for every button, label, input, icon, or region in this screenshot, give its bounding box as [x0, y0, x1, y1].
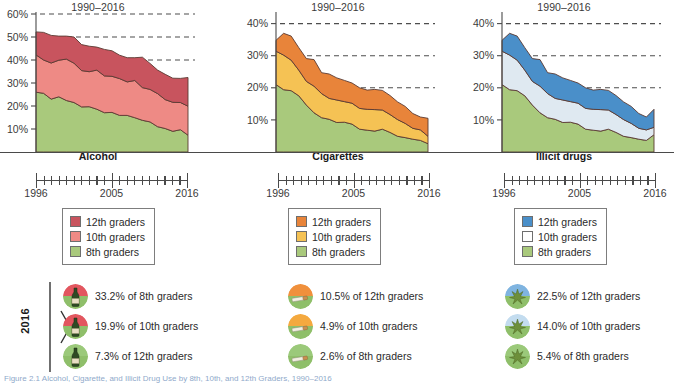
time-axis-minor-tick	[512, 176, 513, 185]
cigarette-icon	[288, 314, 313, 339]
stat-label: 33.2% of 8th graders	[95, 290, 192, 302]
time-axis-label-mid: 2005	[100, 187, 123, 199]
time-axis-minor-tick	[399, 176, 400, 185]
legend-item-label: 10th graders	[538, 231, 597, 243]
time-axis-minor-tick	[119, 176, 120, 185]
legend-swatch-icon	[522, 216, 533, 227]
stats-column-cigarettes: 10.5% of 12th graders4.9% of 10th grader…	[288, 281, 503, 371]
time-axis-label-mid: 2005	[342, 187, 365, 199]
stat-label: 22.5% of 12th graders	[537, 290, 640, 302]
stat-row: 33.2% of 8th graders	[63, 281, 278, 311]
legend-item[interactable]: 8th graders	[522, 244, 597, 259]
time-axis-minor-tick	[632, 176, 633, 185]
legend-item[interactable]: 8th graders	[70, 244, 145, 259]
time-axis-minor-tick	[625, 176, 626, 185]
time-axis-minor-tick	[376, 176, 377, 185]
svg-text:10%: 10%	[7, 123, 28, 135]
time-axis-minor-tick	[602, 176, 603, 185]
legend-swatch-icon	[70, 231, 81, 242]
legend-item[interactable]: 10th graders	[70, 229, 145, 244]
stat-row: 2.6% of 8th graders	[288, 341, 503, 371]
legend-item-label: 10th graders	[86, 231, 145, 243]
stat-label: 4.9% of 10th graders	[320, 320, 417, 332]
time-axis-minor-tick	[617, 176, 618, 185]
svg-text:10%: 10%	[473, 114, 494, 126]
time-axis-major-tick	[504, 173, 505, 188]
stat-label: 2.6% of 8th graders	[320, 350, 412, 362]
time-axis-minor-tick	[572, 176, 573, 185]
legend-item[interactable]: 12th graders	[522, 214, 597, 229]
time-axis-minor-tick	[142, 176, 143, 185]
time-axis-minor-tick	[647, 176, 648, 185]
time-axis-minor-tick	[51, 176, 52, 185]
time-axis-minor-tick	[587, 176, 588, 185]
legend-swatch-icon	[296, 231, 307, 242]
legend-item-label: 8th graders	[538, 246, 591, 258]
time-axis-minor-tick	[534, 176, 535, 185]
svg-text:30%: 30%	[7, 77, 28, 89]
time-axis-minor-tick	[346, 176, 347, 185]
legend-item[interactable]: 10th graders	[296, 229, 371, 244]
chart-panel-illicit-drugs: 1990–2016 10%20%30%40% Illicit drugs	[466, 0, 662, 170]
stat-label: 19.9% of 10th graders	[95, 320, 198, 332]
stat-label: 14.0% of 10th graders	[537, 320, 640, 332]
stat-row: 22.5% of 12th graders	[505, 281, 674, 311]
legend-swatch-icon	[522, 231, 533, 242]
legend-item-label: 12th graders	[538, 216, 597, 228]
time-axis-minor-tick	[149, 176, 150, 185]
time-axis-minor-tick	[557, 176, 558, 185]
legend-item[interactable]: 8th graders	[296, 244, 371, 259]
time-axis-minor-tick	[104, 176, 105, 185]
time-axis-minor-tick	[564, 176, 565, 185]
legend-item-label: 12th graders	[86, 216, 145, 228]
bottle-icon	[63, 344, 88, 369]
time-axis-minor-tick	[384, 176, 385, 185]
time-axis-minor-tick	[406, 176, 407, 185]
stat-row: 10.5% of 12th graders	[288, 281, 503, 311]
time-axis-major-tick	[187, 173, 188, 188]
svg-text:30%: 30%	[473, 49, 494, 61]
area-chart-alcohol: 10%20%30%40%50%60%	[0, 0, 196, 152]
time-axis-minor-tick	[81, 176, 82, 185]
svg-text:40%: 40%	[7, 54, 28, 66]
time-axis-minor-tick	[301, 176, 302, 185]
figure-root: 1990–2016 10%20%30%40%50%60% Alcohol 199…	[0, 0, 674, 384]
stat-row: 5.4% of 8th graders	[505, 341, 674, 371]
legend-item[interactable]: 12th graders	[70, 214, 145, 229]
legend-illicit-drugs: 12th graders10th graders8th graders	[514, 208, 607, 265]
time-axis-minor-tick	[308, 176, 309, 185]
bottle-icon	[63, 284, 88, 309]
time-axis-minor-tick	[542, 176, 543, 185]
plot-area-alcohol: 10%20%30%40%50%60%	[0, 0, 196, 152]
stat-badge	[505, 314, 530, 339]
stat-label: 5.4% of 8th graders	[537, 350, 629, 362]
time-axis-minor-tick	[164, 176, 165, 185]
stat-label: 10.5% of 12th graders	[320, 290, 423, 302]
svg-text:10%: 10%	[247, 114, 268, 126]
stat-badge	[63, 314, 88, 339]
legend-item-label: 10th graders	[312, 231, 371, 243]
time-axis-major-tick	[429, 173, 430, 188]
time-axis-major-tick	[354, 173, 355, 188]
time-axis-minor-tick	[595, 176, 596, 185]
legend-alcohol: 12th graders10th graders8th graders	[62, 208, 155, 265]
time-axis-label-end: 2016	[417, 187, 440, 199]
year-bracket-label: 2016	[19, 308, 31, 334]
time-axis-label-end: 2016	[643, 187, 666, 199]
time-axis-major-tick	[655, 173, 656, 188]
legend-item-label: 12th graders	[312, 216, 371, 228]
time-axis-label-start: 1996	[492, 187, 515, 199]
time-axis-minor-tick	[361, 176, 362, 185]
stat-row: 4.9% of 10th graders	[288, 311, 503, 341]
time-axis-minor-tick	[527, 176, 528, 185]
legend-swatch-icon	[296, 216, 307, 227]
legend-item[interactable]: 12th graders	[296, 214, 371, 229]
stat-badge	[288, 344, 313, 369]
time-axis-minor-tick	[66, 176, 67, 185]
baseline-axis	[0, 152, 674, 153]
time-axis-minor-tick	[421, 176, 422, 185]
stat-badge	[288, 284, 313, 309]
legend-item[interactable]: 10th graders	[522, 229, 597, 244]
time-axis-minor-tick	[323, 176, 324, 185]
time-axis-minor-tick	[96, 176, 97, 185]
